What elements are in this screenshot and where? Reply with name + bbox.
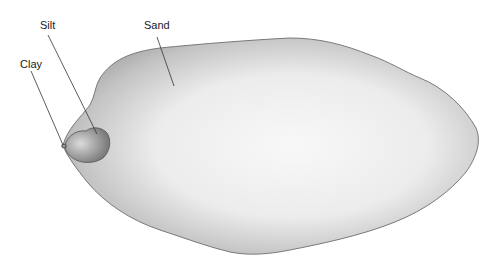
silt-leader-line — [48, 35, 97, 134]
sand-particle — [63, 38, 478, 254]
clay-leader-line — [31, 71, 63, 145]
clay-label: Clay — [20, 59, 42, 70]
particle-size-diagram — [0, 0, 497, 269]
silt-label: Silt — [40, 20, 55, 31]
clay-particle — [62, 144, 67, 148]
sand-label: Sand — [144, 20, 170, 31]
